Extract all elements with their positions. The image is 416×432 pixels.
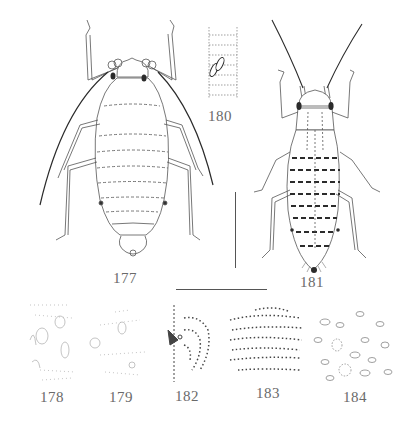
- figure-label-180: 180: [200, 108, 240, 125]
- figure-184-wax-gland-detail: [314, 312, 392, 381]
- figure-label-184: 184: [335, 389, 375, 406]
- figure-182-spiracle-detail: [168, 305, 209, 382]
- figure-178-cuticle-detail: [30, 305, 75, 380]
- figure-label-177: 177: [105, 270, 145, 287]
- figure-label-181: 181: [292, 274, 332, 291]
- figure-label-178: 178: [32, 389, 72, 406]
- figure-179-cuticle-detail: [90, 310, 145, 375]
- figure-plate: 177 180 181 178 179 182 183 184: [0, 0, 416, 432]
- figure-183-sculpture-detail: [230, 308, 302, 370]
- figure-label-182: 182: [167, 388, 207, 405]
- lower-detail-figures: [0, 0, 416, 432]
- figure-label-183: 183: [248, 385, 288, 402]
- figure-label-179: 179: [101, 389, 141, 406]
